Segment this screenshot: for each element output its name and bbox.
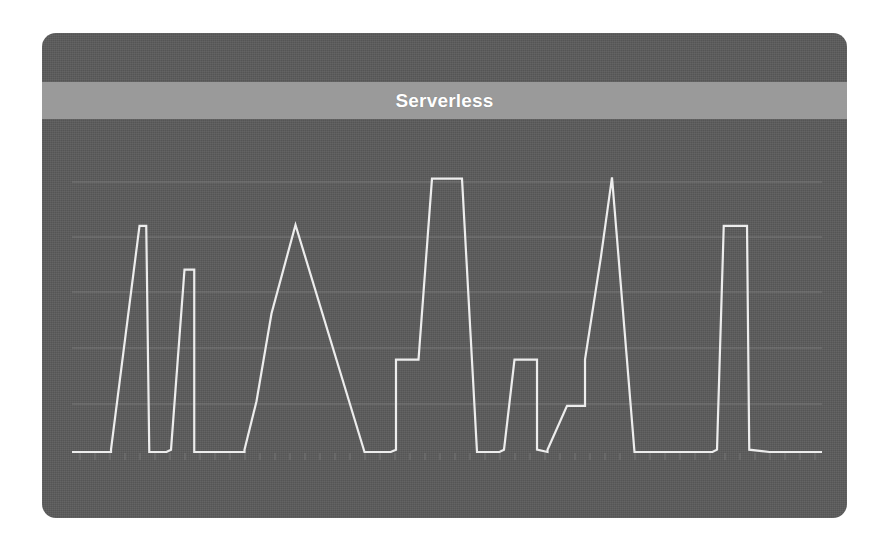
axis-tickmarks	[80, 453, 815, 460]
utilization-trace	[72, 177, 822, 452]
chart-title-band: Serverless	[42, 82, 847, 119]
gridlines	[72, 182, 822, 404]
page-title: Serverless	[395, 90, 493, 112]
chart-card: Serverless	[42, 33, 847, 518]
